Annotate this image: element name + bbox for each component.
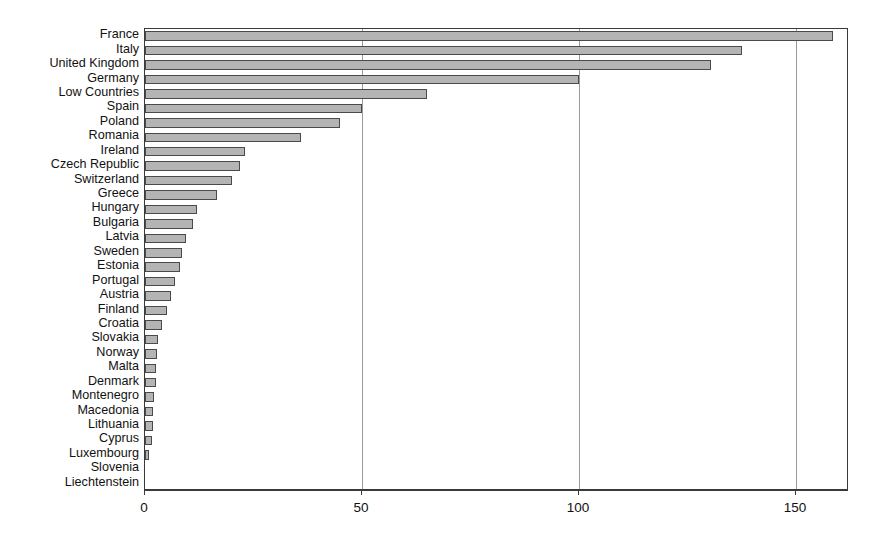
x-axis-tick [144, 489, 145, 495]
bar[interactable] [145, 234, 186, 244]
y-axis-label: Portugal [92, 274, 139, 287]
y-axis-label: France [100, 28, 139, 41]
bar[interactable] [145, 60, 711, 70]
y-axis-label: Croatia [98, 317, 139, 330]
bar-row [145, 29, 847, 43]
y-axis-category-labels: FranceItalyUnited KingdomGermanyLow Coun… [0, 28, 139, 490]
y-axis-label: Montenegro [72, 389, 139, 402]
bar-row [145, 462, 847, 476]
bar[interactable] [145, 219, 193, 229]
bar-chart: FranceItalyUnited KingdomGermanyLow Coun… [0, 0, 873, 542]
bar[interactable] [145, 46, 742, 56]
y-axis-label: Slovenia [91, 461, 139, 474]
bar[interactable] [145, 104, 362, 114]
x-axis-tick [795, 489, 796, 495]
bar-row [145, 246, 847, 260]
bar[interactable] [145, 205, 197, 215]
bar[interactable] [145, 190, 217, 200]
y-axis-label: Romania [89, 129, 139, 142]
y-axis-label: Norway [96, 346, 139, 359]
y-axis-label: Liechtenstein [65, 476, 139, 489]
bar-row [145, 202, 847, 216]
y-axis-label: Latvia [105, 230, 139, 243]
y-axis-label: Hungary [91, 201, 139, 214]
bar-row [145, 448, 847, 462]
bar[interactable] [145, 436, 152, 446]
bar[interactable] [145, 421, 153, 431]
y-axis-label: Macedonia [77, 404, 139, 417]
y-axis-label: Ireland [100, 144, 139, 157]
bar[interactable] [145, 291, 171, 301]
y-axis-label: Sweden [93, 245, 139, 258]
bar[interactable] [145, 335, 158, 345]
bar-row [145, 390, 847, 404]
bar[interactable] [145, 407, 153, 417]
bar-row [145, 159, 847, 173]
bar[interactable] [145, 31, 833, 41]
bar[interactable] [145, 392, 154, 402]
y-axis-label: Germany [87, 72, 139, 85]
x-axis-tick [578, 489, 579, 495]
bar[interactable] [145, 147, 245, 157]
bar-row [145, 361, 847, 375]
bar[interactable] [145, 248, 182, 258]
bar-row [145, 231, 847, 245]
y-axis-label: Italy [116, 43, 139, 56]
bar-row [145, 332, 847, 346]
y-axis-label: Poland [100, 115, 139, 128]
x-axis-tick-label: 50 [354, 500, 369, 515]
y-axis-label: Luxembourg [69, 447, 139, 460]
bar-row [145, 116, 847, 130]
bar[interactable] [145, 89, 427, 99]
bar-row [145, 130, 847, 144]
y-axis-label: Malta [108, 360, 139, 373]
bar-row [145, 347, 847, 361]
bar[interactable] [145, 306, 167, 316]
bar[interactable] [145, 320, 162, 330]
bar-row [145, 274, 847, 288]
bar[interactable] [145, 133, 301, 143]
bar-row [145, 173, 847, 187]
bar[interactable] [145, 176, 232, 186]
bar-row [145, 303, 847, 317]
y-axis-label: Cyprus [99, 432, 139, 445]
y-axis-label: Czech Republic [51, 158, 139, 171]
y-axis-label: Low Countries [58, 86, 139, 99]
y-axis-label: Greece [98, 187, 139, 200]
bar[interactable] [145, 161, 240, 171]
y-axis-label: Lithuania [88, 418, 139, 431]
bar-row [145, 404, 847, 418]
bar[interactable] [145, 262, 180, 272]
y-axis-label: Slovakia [91, 331, 139, 344]
bar[interactable] [145, 378, 156, 388]
bar-row [145, 87, 847, 101]
bar[interactable] [145, 450, 149, 460]
y-axis-label: Switzerland [74, 173, 139, 186]
bar-row [145, 101, 847, 115]
bar-row [145, 217, 847, 231]
y-axis-label: Austria [100, 288, 139, 301]
bar-row [145, 419, 847, 433]
y-axis-label: Denmark [88, 375, 139, 388]
bar-row [145, 318, 847, 332]
y-axis-label: Estonia [97, 259, 139, 272]
x-axis-tick [361, 489, 362, 495]
bar[interactable] [145, 349, 157, 359]
y-axis-label: Bulgaria [93, 216, 139, 229]
y-axis-label: Finland [98, 303, 139, 316]
bar-rows [145, 29, 847, 489]
x-axis-line [144, 489, 848, 491]
bar-row [145, 72, 847, 86]
bar-row [145, 289, 847, 303]
bar-row [145, 376, 847, 390]
plot-area [144, 28, 848, 490]
bar[interactable] [145, 364, 156, 374]
bar-row [145, 58, 847, 72]
bar[interactable] [145, 75, 579, 85]
bar-row [145, 43, 847, 57]
bar[interactable] [145, 118, 340, 128]
bar[interactable] [145, 277, 175, 287]
y-axis-label: United Kingdom [49, 57, 139, 70]
y-axis-label: Spain [107, 100, 139, 113]
bar-row [145, 260, 847, 274]
